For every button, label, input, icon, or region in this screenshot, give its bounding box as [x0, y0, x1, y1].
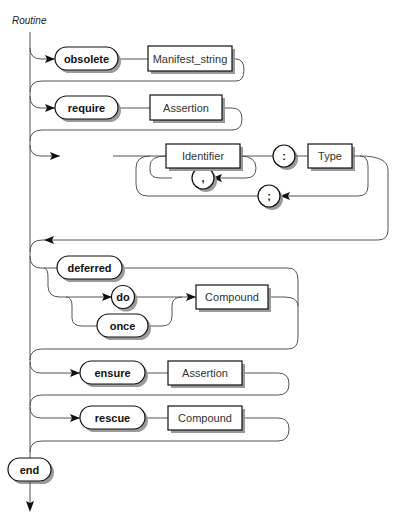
end-terminal: end — [8, 458, 54, 512]
keyword-do-label: do — [116, 291, 130, 303]
keyword-once-label: once — [110, 320, 136, 332]
nonterminal-type-label: Type — [318, 150, 342, 162]
nonterminal-assertion-label: Assertion — [182, 367, 228, 379]
require-branch: require Assertion — [30, 95, 242, 141]
nonterminal-identifier-label: Identifier — [182, 150, 225, 162]
ensure-branch: ensure Assertion — [30, 361, 289, 406]
terminal-colon-label: : — [282, 150, 286, 162]
terminal-comma-label: , — [201, 172, 204, 184]
obsolete-branch: obsolete Manifest_string — [30, 46, 244, 92]
keyword-rescue-label: rescue — [95, 412, 130, 424]
keyword-ensure-label: ensure — [94, 367, 130, 379]
nonterminal-compound-label: Compound — [205, 291, 259, 303]
rescue-branch: rescue Compound — [30, 406, 289, 452]
nonterminal-compound-label: Compound — [178, 412, 232, 424]
nonterminal-assertion-label: Assertion — [163, 102, 209, 114]
keyword-end-label: end — [20, 464, 40, 476]
keyword-require-label: require — [68, 102, 105, 114]
local-branch: , Identifier : Type ; — [30, 144, 388, 252]
keyword-obsolete-label: obsolete — [64, 53, 109, 65]
nonterminal-manifest-string-label: Manifest_string — [153, 53, 228, 65]
keyword-deferred-label: deferred — [67, 262, 111, 274]
terminal-semicolon-label: ; — [267, 190, 271, 202]
routine-body-branch: deferred do once Compound — [30, 256, 298, 360]
routine-syntax-diagram: Routine obsolete Manifest_string require… — [0, 0, 408, 522]
diagram-title: Routine — [12, 15, 47, 26]
